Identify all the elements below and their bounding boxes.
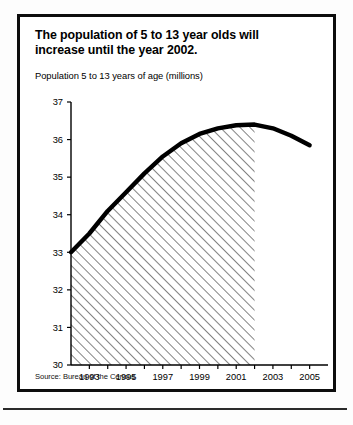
y-tick-label: 35	[53, 172, 63, 182]
x-tick-label: 2005	[299, 372, 320, 382]
y-axis: 3031323334353637	[53, 97, 71, 370]
bottom-divider	[3, 408, 347, 410]
y-tick-label: 31	[53, 323, 63, 333]
chart-panel: The population of 5 to 13 year olds will…	[17, 14, 336, 392]
x-tick-label: 1999	[189, 372, 210, 382]
x-tick-label: 1997	[152, 372, 173, 382]
x-tick-label: 2003	[263, 372, 284, 382]
x-tick-label: 2001	[226, 372, 247, 382]
y-tick-label: 36	[53, 135, 63, 145]
hatched-region	[71, 125, 255, 365]
y-tick-label: 30	[53, 360, 63, 370]
y-tick-label: 34	[53, 210, 63, 220]
plot-svg: 3031323334353637 19931995199719992001200…	[20, 17, 339, 395]
y-tick-label: 33	[53, 248, 63, 258]
source-note: Source: Bureau of the Census	[35, 372, 135, 381]
y-tick-label: 37	[53, 97, 63, 107]
y-tick-label: 32	[53, 285, 63, 295]
chart-figure: The population of 5 to 13 year olds will…	[0, 0, 353, 425]
plot-area: 3031323334353637 19931995199719992001200…	[20, 17, 339, 395]
